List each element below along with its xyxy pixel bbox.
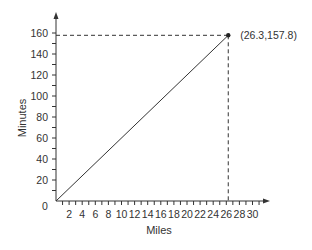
y-axis-ticks: 20406080100120140160 — [30, 27, 56, 191]
y-tick-label: 140 — [30, 48, 48, 60]
x-tick-label: 18 — [168, 208, 180, 220]
x-tick-label: 30 — [247, 208, 259, 220]
y-tick-label: 20 — [36, 174, 48, 186]
y-tick-label: 60 — [36, 132, 48, 144]
data-point-annotation: (26.3,157.8) — [240, 29, 297, 41]
y-axis-arrow-icon — [54, 12, 59, 19]
y-tick-label: 40 — [36, 153, 48, 165]
x-axis-ticks: 24681012141618202224262830 — [63, 201, 259, 220]
line-chart: 20406080100120140160 2468101214161820222… — [0, 0, 312, 250]
x-tick-label: 4 — [79, 208, 85, 220]
x-tick-label: 28 — [234, 208, 246, 220]
y-tick-label: 80 — [36, 111, 48, 123]
x-tick-label: 12 — [129, 208, 141, 220]
data-point-marker — [226, 33, 230, 37]
data-line — [56, 35, 228, 201]
x-tick-label: 2 — [66, 208, 72, 220]
x-tick-label: 14 — [142, 208, 154, 220]
y-tick-label: 120 — [30, 69, 48, 81]
x-tick-label: 6 — [92, 208, 98, 220]
x-tick-label: 8 — [105, 208, 111, 220]
x-tick-label: 16 — [155, 208, 167, 220]
y-tick-label: 100 — [30, 90, 48, 102]
origin-label: 0 — [42, 200, 48, 212]
y-axis-title: Minutes — [16, 98, 28, 137]
x-axis-arrow-icon — [263, 199, 270, 204]
x-tick-label: 10 — [116, 208, 128, 220]
x-axis-title: Miles — [146, 224, 172, 236]
y-tick-label: 160 — [30, 27, 48, 39]
x-tick-label: 24 — [207, 208, 219, 220]
x-tick-label: 20 — [181, 208, 193, 220]
x-tick-label: 22 — [194, 208, 206, 220]
x-tick-label: 26 — [220, 208, 232, 220]
